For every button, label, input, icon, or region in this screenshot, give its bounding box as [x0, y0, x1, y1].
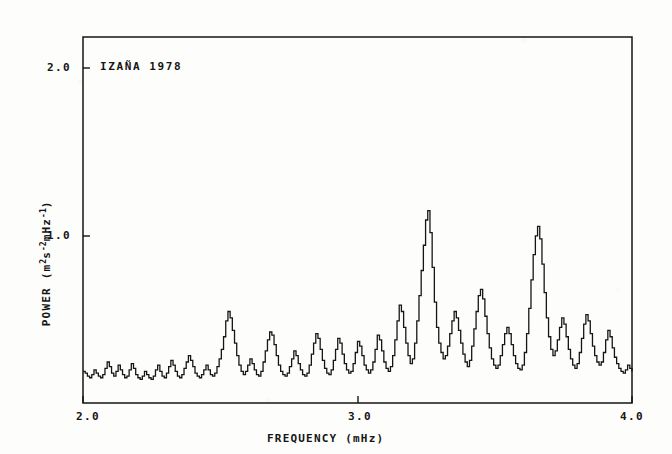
ytick-label-2: 2.0 — [47, 61, 71, 74]
y-axis-exponent-3: -1 — [39, 208, 48, 218]
plot-annotation-title: IZAÑA 1978 — [100, 60, 182, 73]
y-axis-title-mid: s — [40, 251, 53, 259]
y-axis-title: POWER (m2s-2mHz-1) — [39, 183, 54, 343]
y-axis-title-prefix: POWER (m — [40, 264, 53, 327]
y-axis-exponent-2: -2 — [39, 241, 48, 251]
xtick-label-2: 2.0 — [76, 410, 100, 423]
spectrum-trace — [83, 211, 632, 380]
xtick-label-3: 3.0 — [348, 410, 372, 423]
y-axis-exponent-1: 2 — [39, 259, 48, 264]
xtick-label-4: 4.0 — [620, 410, 644, 423]
x-axis-title: FREQUENCY (mHz) — [267, 432, 384, 445]
y-axis-title-suffix: ) — [40, 200, 53, 208]
power-spectrum-figure: IZAÑA 1978 2.0 1.0 2.0 3.0 4.0 FREQUENCY… — [0, 0, 672, 454]
y-axis-title-mid2: mHz — [40, 218, 53, 241]
spectrum-trace-group — [83, 211, 632, 380]
